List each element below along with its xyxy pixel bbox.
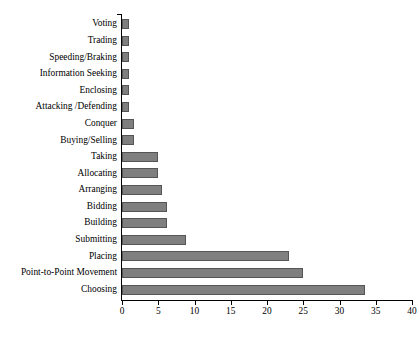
category-axis-top-tick: [117, 14, 122, 15]
bar: [122, 85, 129, 95]
bar-row: Voting: [122, 16, 412, 32]
bar-row: Arranging: [122, 182, 412, 198]
category-label: Buying/Selling: [60, 136, 117, 145]
category-label: Bidding: [87, 202, 117, 211]
category-label: Trading: [88, 36, 117, 45]
bar: [122, 185, 162, 195]
bar-row: Taking: [122, 149, 412, 165]
axis-tick-label: 35: [371, 307, 380, 316]
category-label: Choosing: [81, 285, 117, 294]
axis-tick-label: 5: [156, 307, 161, 316]
category-label: Building: [84, 218, 117, 227]
axis-tick-label: 10: [190, 307, 199, 316]
bar-row: Choosing: [122, 281, 412, 297]
bar: [122, 36, 129, 46]
bar-row: Conquer: [122, 116, 412, 132]
axis-tick-label: 30: [335, 307, 344, 316]
axis-tick-label: 15: [226, 307, 235, 316]
bar-row: Trading: [122, 33, 412, 49]
bar-row: Allocating: [122, 165, 412, 181]
axis-tick-label: 40: [407, 307, 416, 316]
bar-row: Enclosing: [122, 82, 412, 98]
category-label: Enclosing: [80, 86, 118, 95]
category-label: Allocating: [77, 169, 117, 178]
axis-tick: [195, 300, 196, 305]
bar-row: Buying/Selling: [122, 132, 412, 148]
bar-row: Attacking /Defending: [122, 99, 412, 115]
bar: [122, 19, 129, 29]
category-label: Point-to-Point Movement: [21, 268, 117, 277]
category-label: Attacking /Defending: [36, 102, 118, 111]
bar: [122, 119, 134, 129]
bar: [122, 235, 186, 245]
bar: [122, 251, 289, 261]
category-label: Voting: [92, 19, 117, 28]
axis-tick: [412, 300, 413, 305]
bar-row: Speeding/Braking: [122, 49, 412, 65]
axis-tick: [158, 300, 159, 305]
bar: [122, 218, 167, 228]
bar: [122, 168, 158, 178]
bar: [122, 285, 365, 295]
bar-rows: VotingTradingSpeeding/BrakingInformation…: [122, 16, 412, 298]
axis-tick-label: 20: [262, 307, 271, 316]
category-label: Information Seeking: [40, 69, 117, 78]
bar-row: Bidding: [122, 198, 412, 214]
bar: [122, 135, 134, 145]
axis-tick: [231, 300, 232, 305]
bar: [122, 69, 129, 79]
category-label: Speeding/Braking: [49, 53, 117, 62]
value-axis-ticks: 0510152025303540: [122, 300, 412, 332]
bar-row: Information Seeking: [122, 66, 412, 82]
axis-tick: [122, 300, 123, 305]
bar: [122, 152, 158, 162]
category-label: Placing: [89, 252, 117, 261]
bar-row: Placing: [122, 248, 412, 264]
bar-row: Building: [122, 215, 412, 231]
plot-area: VotingTradingSpeeding/BrakingInformation…: [122, 16, 412, 298]
axis-tick: [303, 300, 304, 305]
axis-tick-label: 25: [299, 307, 308, 316]
category-label: Taking: [91, 152, 117, 161]
bar-row: Point-to-Point Movement: [122, 265, 412, 281]
axis-tick: [267, 300, 268, 305]
category-label: Submitting: [75, 235, 117, 244]
category-label: Arranging: [78, 185, 117, 194]
axis-tick-label: 0: [120, 307, 125, 316]
bar: [122, 102, 129, 112]
axis-tick: [376, 300, 377, 305]
bar: [122, 268, 303, 278]
bar: [122, 52, 129, 62]
bar-row: Submitting: [122, 232, 412, 248]
axis-tick: [340, 300, 341, 305]
category-label: Conquer: [85, 119, 117, 128]
bar: [122, 202, 167, 212]
